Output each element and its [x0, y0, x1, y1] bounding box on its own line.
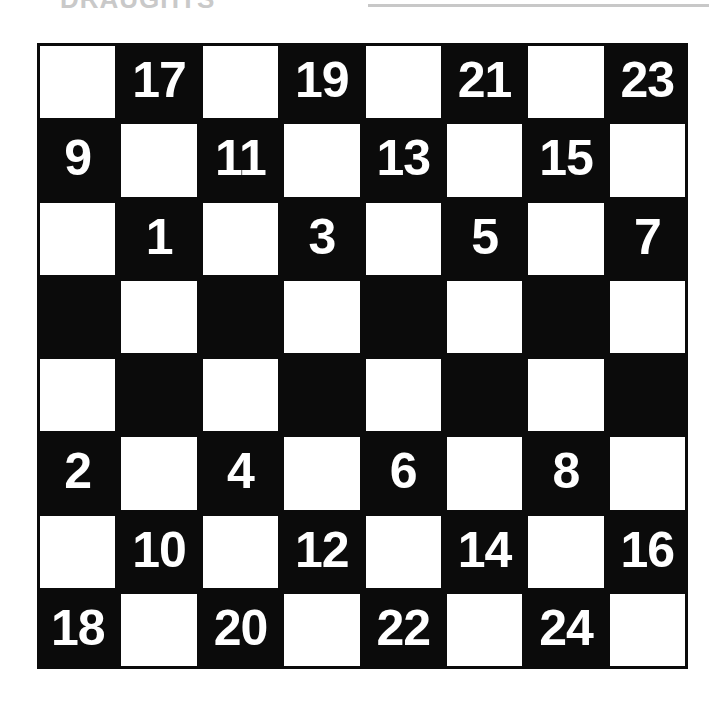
- square-number-label: 18: [51, 603, 105, 653]
- board-square-4-8[interactable]: [607, 278, 688, 356]
- board-square-2-8[interactable]: [607, 121, 688, 199]
- board-square-5-5[interactable]: [363, 356, 444, 434]
- board-square-7-7[interactable]: [525, 513, 606, 591]
- board-square-8-7[interactable]: 24: [525, 591, 606, 669]
- board-square-4-1[interactable]: [37, 278, 118, 356]
- board-square-7-3[interactable]: [200, 513, 281, 591]
- square-number-label: 13: [376, 133, 430, 183]
- board-square-8-8[interactable]: [607, 591, 688, 669]
- square-number-label: 14: [458, 525, 512, 575]
- header-horizontal-rule: [368, 4, 709, 7]
- square-number-label: 12: [295, 525, 349, 575]
- board-square-1-7[interactable]: [525, 43, 606, 121]
- square-number-label: 10: [132, 525, 186, 575]
- board-square-4-7[interactable]: [525, 278, 606, 356]
- board-square-7-6[interactable]: 14: [444, 513, 525, 591]
- square-number-label: 2: [64, 446, 91, 496]
- board-square-6-4[interactable]: [281, 434, 362, 512]
- board-square-1-6[interactable]: 21: [444, 43, 525, 121]
- square-number-label: 22: [376, 603, 430, 653]
- board-square-6-7[interactable]: 8: [525, 434, 606, 512]
- square-number-label: 8: [553, 446, 580, 496]
- square-number-label: 6: [390, 446, 417, 496]
- board-square-1-4[interactable]: 19: [281, 43, 362, 121]
- board-square-5-1[interactable]: [37, 356, 118, 434]
- square-number-label: 17: [132, 55, 186, 105]
- square-number-label: 5: [471, 212, 498, 262]
- scan-page-header: DRAUGHTS: [0, 0, 713, 14]
- board-square-2-1[interactable]: 9: [37, 121, 118, 199]
- board-square-4-3[interactable]: [200, 278, 281, 356]
- board-square-4-6[interactable]: [444, 278, 525, 356]
- square-number-label: 21: [458, 55, 512, 105]
- board-square-1-8[interactable]: 23: [607, 43, 688, 121]
- board-square-4-4[interactable]: [281, 278, 362, 356]
- board-square-1-5[interactable]: [363, 43, 444, 121]
- square-number-label: 19: [295, 55, 349, 105]
- board-square-3-5[interactable]: [363, 200, 444, 278]
- board-square-2-4[interactable]: [281, 121, 362, 199]
- square-number-label: 15: [539, 133, 593, 183]
- board-square-5-3[interactable]: [200, 356, 281, 434]
- board-square-1-3[interactable]: [200, 43, 281, 121]
- draughts-board: 171921239111315135724681012141618202224: [37, 43, 688, 669]
- board-square-5-8[interactable]: [607, 356, 688, 434]
- board-square-3-8[interactable]: 7: [607, 200, 688, 278]
- board-square-8-2[interactable]: [118, 591, 199, 669]
- board-square-6-8[interactable]: [607, 434, 688, 512]
- board-square-2-5[interactable]: 13: [363, 121, 444, 199]
- square-number-label: 7: [634, 212, 661, 262]
- board-square-7-2[interactable]: 10: [118, 513, 199, 591]
- board-square-5-4[interactable]: [281, 356, 362, 434]
- board-square-5-6[interactable]: [444, 356, 525, 434]
- square-number-label: 1: [146, 212, 173, 262]
- board-square-3-2[interactable]: 1: [118, 200, 199, 278]
- square-number-label: 11: [215, 133, 266, 183]
- board-square-6-6[interactable]: [444, 434, 525, 512]
- board-square-6-5[interactable]: 6: [363, 434, 444, 512]
- board-square-7-4[interactable]: 12: [281, 513, 362, 591]
- board-square-8-6[interactable]: [444, 591, 525, 669]
- square-number-label: 9: [64, 133, 91, 183]
- board-square-8-4[interactable]: [281, 591, 362, 669]
- board-square-4-2[interactable]: [118, 278, 199, 356]
- board-square-2-6[interactable]: [444, 121, 525, 199]
- square-number-label: 4: [227, 446, 254, 496]
- board-square-3-6[interactable]: 5: [444, 200, 525, 278]
- board-square-3-3[interactable]: [200, 200, 281, 278]
- square-number-label: 24: [539, 603, 593, 653]
- board-square-3-4[interactable]: 3: [281, 200, 362, 278]
- square-number-label: 23: [621, 55, 675, 105]
- square-number-label: 16: [621, 525, 675, 575]
- board-square-6-1[interactable]: 2: [37, 434, 118, 512]
- square-number-label: 20: [214, 603, 268, 653]
- board-square-8-5[interactable]: 22: [363, 591, 444, 669]
- board-square-6-3[interactable]: 4: [200, 434, 281, 512]
- board-square-4-5[interactable]: [363, 278, 444, 356]
- cut-off-heading-text: DRAUGHTS: [60, 0, 215, 14]
- square-number-label: 3: [308, 212, 335, 262]
- board-square-7-1[interactable]: [37, 513, 118, 591]
- board-square-1-1[interactable]: [37, 43, 118, 121]
- board-square-8-3[interactable]: 20: [200, 591, 281, 669]
- board-square-7-5[interactable]: [363, 513, 444, 591]
- board-square-7-8[interactable]: 16: [607, 513, 688, 591]
- board-square-3-7[interactable]: [525, 200, 606, 278]
- board-square-2-2[interactable]: [118, 121, 199, 199]
- board-square-8-1[interactable]: 18: [37, 591, 118, 669]
- board-square-2-3[interactable]: 11: [200, 121, 281, 199]
- board-square-2-7[interactable]: 15: [525, 121, 606, 199]
- board-square-6-2[interactable]: [118, 434, 199, 512]
- board-square-1-2[interactable]: 17: [118, 43, 199, 121]
- board-square-3-1[interactable]: [37, 200, 118, 278]
- board-square-5-7[interactable]: [525, 356, 606, 434]
- board-square-5-2[interactable]: [118, 356, 199, 434]
- draughts-board-container: 171921239111315135724681012141618202224: [37, 43, 688, 669]
